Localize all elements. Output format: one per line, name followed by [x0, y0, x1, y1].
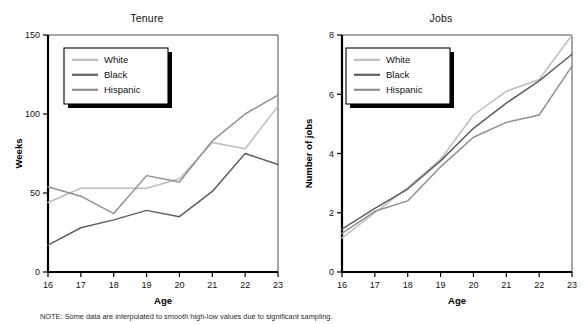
- x-tick-label: 16: [43, 280, 53, 290]
- x-tick-label: 16: [337, 280, 347, 290]
- y-tick-label: 6: [329, 90, 334, 100]
- x-tick-label: 19: [436, 280, 446, 290]
- y-axis-title: Number of jobs: [303, 119, 314, 189]
- y-tick-label: 100: [25, 109, 40, 119]
- legend-label-hispanic: Hispanic: [104, 84, 141, 95]
- series-line-black: [48, 154, 278, 246]
- y-tick-label: 150: [25, 30, 40, 40]
- y-tick-label: 0: [35, 267, 40, 277]
- x-tick-label: 20: [174, 280, 184, 290]
- y-tick-label: 8: [329, 30, 334, 40]
- x-tick-label: 17: [76, 280, 86, 290]
- x-tick-label: 22: [240, 280, 250, 290]
- x-tick-label: 23: [567, 280, 577, 290]
- x-axis-title: Age: [154, 295, 172, 306]
- figure-container: Tenure 0501001501617181920212223AgeWeeks…: [0, 0, 588, 324]
- x-tick-label: 21: [207, 280, 217, 290]
- x-axis-title: Age: [448, 295, 466, 306]
- x-tick-label: 17: [370, 280, 380, 290]
- legend-label-white: White: [386, 54, 410, 65]
- x-tick-label: 20: [468, 280, 478, 290]
- chart-panel-tenure: Tenure 0501001501617181920212223AgeWeeks…: [0, 0, 294, 310]
- x-tick-label: 21: [501, 280, 511, 290]
- legend-label-hispanic: Hispanic: [386, 84, 423, 95]
- y-axis-title: Weeks: [13, 139, 24, 169]
- legend-label-black: Black: [104, 69, 127, 80]
- chart-panel-jobs: Jobs 024681617181920212223AgeNumber of j…: [294, 0, 588, 310]
- figure-note: NOTE: Some data are interpolated to smoo…: [40, 312, 580, 322]
- y-tick-label: 2: [329, 208, 334, 218]
- y-tick-label: 50: [30, 188, 40, 198]
- x-tick-label: 18: [109, 280, 119, 290]
- x-tick-label: 19: [142, 280, 152, 290]
- y-tick-label: 4: [329, 149, 334, 159]
- chart-plot-jobs: 024681617181920212223AgeNumber of jobsWh…: [294, 0, 588, 310]
- legend-label-white: White: [104, 54, 128, 65]
- x-tick-label: 18: [403, 280, 413, 290]
- x-tick-label: 22: [534, 280, 544, 290]
- x-tick-label: 23: [273, 280, 283, 290]
- legend-label-black: Black: [386, 69, 409, 80]
- y-tick-label: 0: [329, 267, 334, 277]
- chart-plot-tenure: 0501001501617181920212223AgeWeeksWhiteBl…: [0, 0, 294, 310]
